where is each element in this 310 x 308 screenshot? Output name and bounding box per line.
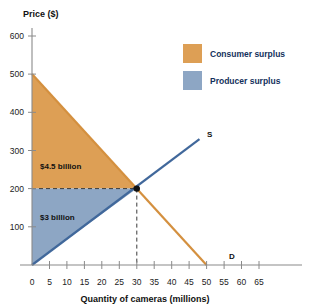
producer-surplus-value-label: $3 billion [40,213,75,222]
x-tick-label-45: 45 [184,277,194,287]
x-tick-label-10: 10 [62,277,72,287]
y-tick-label-600: 600 [10,31,24,41]
legend-swatch-consumer-surplus [183,44,202,63]
chart-canvas: Price ($) 600 500 400 300 200 100 [0,0,310,308]
y-tick-label-400: 400 [10,107,24,117]
legend-label-consumer-surplus: Consumer surplus [210,49,285,59]
y-tick-label-100: 100 [10,222,24,232]
equilibrium-point [134,185,140,191]
x-tick-label-5: 5 [47,277,52,287]
x-tick-label-30: 30 [132,277,142,287]
supply-demand-surplus-chart: Price ($) 600 500 400 300 200 100 [0,0,310,308]
legend-swatch-producer-surplus [183,71,202,90]
x-tick-label-55: 55 [219,277,229,287]
x-tick-label-15: 15 [80,277,90,287]
x-tick-label-20: 20 [97,277,107,287]
legend: Consumer surplus Producer surplus [183,44,285,90]
legend-label-producer-surplus: Producer surplus [210,76,281,86]
consumer-surplus-value-label: $4.5 billion [40,162,81,171]
x-tick-label-60: 60 [237,277,247,287]
x-tick-label-25: 25 [115,277,125,287]
demand-curve-label: D [229,252,235,261]
x-tick-label-0: 0 [30,277,35,287]
supply-curve-label: S [207,130,213,139]
x-tick-label-65: 65 [254,277,264,287]
y-tick-label-300: 300 [10,146,24,156]
x-tick-label-35: 35 [149,277,159,287]
y-tick-label-500: 500 [10,69,24,79]
y-tick-label-200: 200 [10,184,24,194]
x-tick-label-40: 40 [167,277,177,287]
y-axis-title: Price ($) [23,9,59,19]
x-tick-label-50: 50 [202,277,212,287]
x-axis-title: Quantity of cameras (millions) [80,294,209,304]
